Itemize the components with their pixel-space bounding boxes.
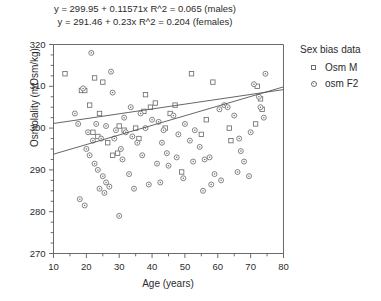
data-points bbox=[63, 50, 268, 218]
legend-label-osm-m: Osm M bbox=[325, 62, 357, 73]
x-tick-label: 50 bbox=[172, 261, 198, 272]
x-axis-title: Age (years) bbox=[53, 278, 283, 289]
x-tick-label: 70 bbox=[238, 261, 264, 272]
legend-item-osm-m[interactable]: Osm M bbox=[300, 62, 381, 73]
x-tick-label: 30 bbox=[106, 261, 132, 272]
y-tick-label: 270 bbox=[16, 248, 46, 259]
regression-lines bbox=[54, 87, 284, 154]
legend-item-osm-f2[interactable]: osm F2 bbox=[300, 78, 381, 89]
legend-label-osm-f2: osm F2 bbox=[325, 78, 358, 89]
x-tick-label: 60 bbox=[205, 261, 231, 272]
y-tick-label: 280 bbox=[16, 206, 46, 217]
legend: Sex bias data Osm M osm F2 bbox=[300, 44, 381, 94]
x-tick-label: 20 bbox=[73, 261, 99, 272]
x-tick-label: 10 bbox=[41, 261, 67, 272]
open-square-icon bbox=[309, 62, 320, 73]
dotted-circle-icon bbox=[309, 78, 320, 89]
legend-title: Sex bias data bbox=[300, 44, 381, 55]
chart-page: y = 299.95 + 0.11571x R^2 = 0.065 (males… bbox=[0, 0, 381, 301]
x-tick-label: 40 bbox=[139, 261, 165, 272]
y-axis-title: Osmolality (mOsm/kg) bbox=[29, 18, 40, 178]
x-tick-label: 80 bbox=[271, 261, 297, 272]
